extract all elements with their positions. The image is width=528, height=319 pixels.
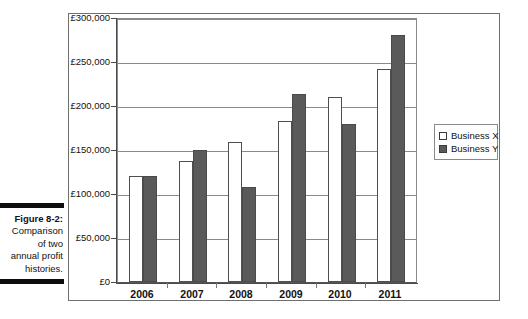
caption-rule-bottom xyxy=(0,279,64,284)
gridline xyxy=(118,19,416,20)
bar-group-2008 xyxy=(228,18,256,282)
y-axis-tick xyxy=(111,282,117,283)
bar-business-x-2009 xyxy=(278,121,292,282)
bar-business-x-2010 xyxy=(328,97,342,282)
bar-group-2009 xyxy=(278,18,306,282)
legend-item-label: Business Y xyxy=(451,144,498,154)
y-axis-tick-label: £200,000 xyxy=(70,101,110,111)
filled-square-swatch xyxy=(439,145,447,153)
figure-caption-block: Figure 8-2: Comparison of two annual pro… xyxy=(0,203,64,284)
y-axis-tick-label: £50,000 xyxy=(76,233,110,243)
bar-business-x-2007 xyxy=(179,161,193,282)
figure-number-label: Figure 8-2: xyxy=(0,213,63,225)
bar-business-y-2011 xyxy=(391,35,405,282)
bar-business-y-2009 xyxy=(292,94,306,282)
bar-business-x-2006 xyxy=(129,176,143,282)
bar-business-x-2008 xyxy=(228,142,242,282)
legend-item[interactable]: Business X xyxy=(439,129,493,142)
gridline xyxy=(118,239,416,240)
y-axis-tick-labels: £300,000£250,000£200,000£150,000£100,000… xyxy=(68,0,110,319)
y-axis-tick-label: £100,000 xyxy=(70,189,110,199)
y-axis-tick-label: £0 xyxy=(99,277,110,287)
y-axis-tick xyxy=(111,18,117,19)
bar-group-2006 xyxy=(129,18,157,282)
y-axis-tick-label: £300,000 xyxy=(70,13,110,23)
gridline xyxy=(118,195,416,196)
bar-group-2010 xyxy=(328,18,356,282)
y-axis-tick xyxy=(111,194,117,195)
y-axis-tick-label: £250,000 xyxy=(70,57,110,67)
figure-caption-text: Figure 8-2: Comparison of two annual pro… xyxy=(0,213,64,275)
caption-line-3: annual profit xyxy=(0,250,63,262)
x-axis-tick-label-2010: 2010 xyxy=(312,288,368,300)
y-axis-tick xyxy=(111,150,117,151)
bar-group-2007 xyxy=(179,18,207,282)
chart-legend: Business XBusiness Y xyxy=(434,124,498,160)
bar-business-y-2007 xyxy=(193,150,207,282)
gridline xyxy=(118,151,416,152)
x-axis-tick-label-2008: 2008 xyxy=(213,288,269,300)
legend-item-label: Business X xyxy=(451,131,499,141)
gridline xyxy=(118,107,416,108)
plot-area xyxy=(117,18,417,283)
y-axis-tick xyxy=(111,238,117,239)
x-axis-tick-label-2007: 2007 xyxy=(164,288,220,300)
bar-business-y-2006 xyxy=(143,176,157,282)
caption-line-2: of two xyxy=(0,238,63,250)
x-axis-line xyxy=(116,283,418,284)
x-axis-tick-label-2011: 2011 xyxy=(362,288,418,300)
caption-rule-top xyxy=(0,203,64,208)
bar-group-2011 xyxy=(377,18,405,282)
legend-item[interactable]: Business Y xyxy=(439,142,493,155)
caption-line-1: Comparison xyxy=(0,225,63,237)
caption-line-4: histories. xyxy=(0,263,63,275)
open-square-swatch xyxy=(439,132,447,140)
bar-business-y-2008 xyxy=(242,187,256,282)
x-axis-tick-label-2006: 2006 xyxy=(114,288,170,300)
x-axis-tick-label-2009: 2009 xyxy=(263,288,319,300)
y-axis-tick-label: £150,000 xyxy=(70,145,110,155)
bar-business-x-2011 xyxy=(377,69,391,282)
y-axis-tick xyxy=(111,62,117,63)
gridline xyxy=(118,63,416,64)
y-axis-tick xyxy=(111,106,117,107)
bar-business-y-2010 xyxy=(342,124,356,282)
